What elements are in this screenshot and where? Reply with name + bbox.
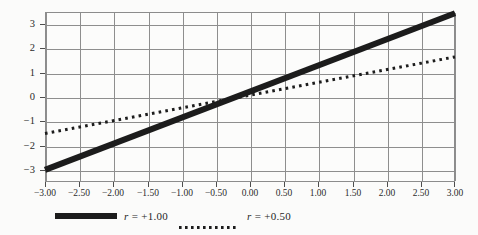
- y-tick-label-4: −1: [9, 115, 35, 126]
- y-tick-6: [40, 170, 45, 171]
- series-line-2: [45, 57, 455, 134]
- series-line-1: [45, 13, 455, 170]
- x-tick-10: [387, 182, 388, 187]
- x-tick-0: [45, 182, 46, 187]
- y-tick-label-1: 2: [9, 42, 35, 53]
- x-tick-5: [216, 182, 217, 187]
- y-tick-2: [40, 73, 45, 74]
- y-tick-label-0: 3: [9, 18, 35, 29]
- y-tick-5: [40, 146, 45, 147]
- legend-entry-r-0-50: r = +0.50: [178, 206, 291, 226]
- dotted-swatch-svg: [178, 226, 240, 229]
- x-tick-7: [284, 182, 285, 187]
- y-tick-label-2: 1: [9, 67, 35, 78]
- y-tick-1: [40, 48, 45, 49]
- x-tick-3: [148, 182, 149, 187]
- y-tick-0: [40, 24, 45, 25]
- y-tick-3: [40, 97, 45, 98]
- x-tick-8: [318, 182, 319, 187]
- y-tick-label-5: −2: [9, 140, 35, 151]
- x-tick-12: [454, 182, 455, 187]
- legend-solid-line-icon: [55, 213, 117, 219]
- legend-dotted-line-icon: [178, 215, 240, 218]
- legend-label-r-1-00: r = +1.00: [124, 210, 168, 222]
- x-tick-2: [113, 182, 114, 187]
- legend-entry-r-1-00: r = +1.00: [55, 206, 168, 226]
- x-tick-11: [421, 182, 422, 187]
- legend-value-1-00: = +1.00: [129, 210, 169, 222]
- x-tick-1: [79, 182, 80, 187]
- x-tick-9: [353, 182, 354, 187]
- y-tick-4: [40, 121, 45, 122]
- x-tick-6: [250, 182, 251, 187]
- y-tick-label-3: 0: [9, 91, 35, 102]
- chart-legend: r = +1.00 r = +0.50: [0, 206, 478, 232]
- legend-value-0-50: = +0.50: [252, 210, 292, 222]
- y-tick-label-6: −3: [9, 164, 35, 175]
- gridline-v-12: [455, 13, 456, 181]
- x-tick-4: [182, 182, 183, 187]
- legend-label-r-0-50: r = +0.50: [247, 210, 291, 222]
- chart-figure: 3210−1−2−3 −3.00−2.50−2.00−1.50−1.00−0.5…: [0, 0, 478, 235]
- data-series-layer: [45, 12, 455, 182]
- x-tick-label-12: 3.00: [433, 188, 477, 199]
